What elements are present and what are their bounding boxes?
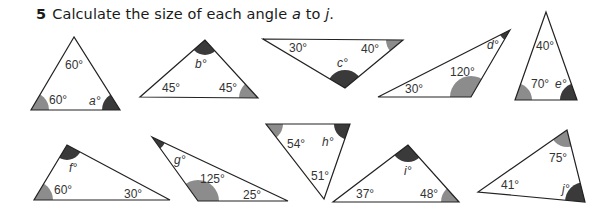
- triangle-j: 75° 41° j°: [478, 113, 605, 212]
- triangle-h: 54° h° 51°: [249, 107, 366, 199]
- angle-arc-unknown: [565, 182, 605, 212]
- angle-label: 37°: [356, 187, 374, 201]
- triangle-b: b° 45° 45°: [140, 25, 277, 117]
- angle-label-unknown: f°: [69, 161, 77, 175]
- triangle-i: i° 37° 48°: [333, 128, 477, 212]
- angle-label: 30°: [124, 187, 142, 201]
- angle-label: 40°: [361, 42, 379, 56]
- triangle-c: 30° 40° c°: [263, 23, 420, 106]
- angle-label-unknown: i°: [404, 164, 412, 178]
- angle-arc-known: [15, 181, 53, 212]
- triangles-figure: 60° 60° a° b° 45° 45° 30° 40° c° d° 120°: [0, 0, 611, 212]
- triangle-d: d° 120° 30°: [378, 19, 521, 118]
- angle-label-unknown: h°: [322, 135, 334, 149]
- angle-label: 41°: [501, 178, 519, 192]
- angle-label: 70°: [531, 77, 549, 91]
- triangle-e: 40° 70° e°: [498, 12, 594, 117]
- angle-label: 60°: [54, 183, 72, 197]
- angle-label-unknown: d°: [487, 38, 499, 52]
- angle-label: 40°: [536, 39, 554, 53]
- angle-label: 30°: [289, 41, 307, 55]
- angle-label: 30°: [405, 82, 423, 96]
- angle-label-unknown: e°: [555, 77, 567, 91]
- angle-label: 60°: [65, 58, 83, 72]
- angle-label-unknown: a°: [89, 94, 101, 108]
- angle-label: 51°: [311, 169, 329, 183]
- angle-label: 45°: [219, 81, 237, 95]
- angle-label: 54°: [287, 137, 305, 151]
- angle-label: 45°: [162, 81, 180, 95]
- angle-label: 60°: [49, 93, 67, 107]
- triangle-f: f° 60° 30°: [15, 130, 170, 212]
- triangle-g: g° 125° 25°: [138, 123, 288, 212]
- angle-label: 25°: [243, 188, 261, 202]
- angle-label: 125°: [200, 172, 225, 186]
- triangle-a: 60° 60° a°: [13, 37, 138, 128]
- angle-label-unknown: c°: [337, 56, 348, 70]
- angle-label: 75°: [549, 151, 567, 165]
- angle-label-unknown: g°: [174, 153, 186, 167]
- angle-label: 48°: [420, 187, 438, 201]
- angle-label-unknown: b°: [195, 57, 207, 71]
- angle-label: 120°: [450, 65, 475, 79]
- angle-label-unknown: j°: [560, 182, 570, 196]
